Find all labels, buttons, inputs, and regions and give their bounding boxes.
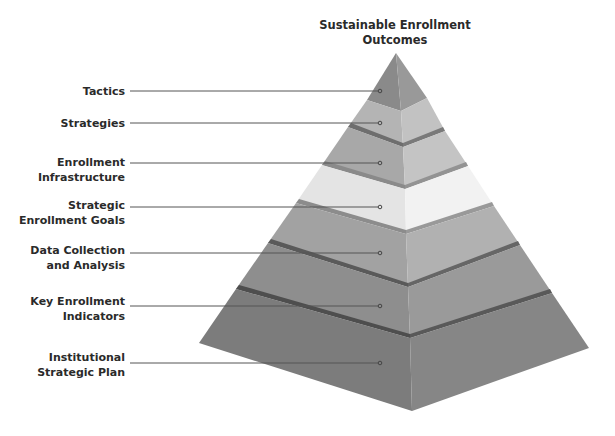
title-line-1: Sustainable Enrollment [300, 18, 490, 33]
label-institutional-strategic-plan: Institutional Strategic Plan [37, 350, 125, 380]
label-key-enrollment-indicators: Key Enrollment Indicators [30, 294, 125, 324]
tier-tactics [367, 53, 427, 111]
pyramid-diagram: Sustainable Enrollment Outcomes Tactics … [0, 0, 615, 436]
label-enrollment-infrastructure: Enrollment Infrastructure [38, 155, 125, 185]
title-line-2: Outcomes [300, 33, 490, 48]
label-line: Infrastructure [38, 170, 125, 185]
label-strategic-enrollment-goals: Strategic Enrollment Goals [19, 198, 125, 228]
label-line: Enrollment Goals [19, 213, 125, 228]
label-line: Strategic Plan [37, 365, 125, 380]
label-data-collection: Data Collection and Analysis [30, 243, 125, 273]
label-line: Enrollment [38, 155, 125, 170]
label-strategies: Strategies [61, 116, 125, 131]
label-line: Tactics [83, 84, 125, 99]
label-line: Strategies [61, 116, 125, 131]
pyramid-title: Sustainable Enrollment Outcomes [300, 18, 490, 48]
label-line: Indicators [30, 309, 125, 324]
label-line: Data Collection [30, 243, 125, 258]
label-line: Key Enrollment [30, 294, 125, 309]
label-tactics: Tactics [83, 84, 125, 99]
label-line: and Analysis [30, 258, 125, 273]
label-line: Institutional [37, 350, 125, 365]
label-line: Strategic [19, 198, 125, 213]
